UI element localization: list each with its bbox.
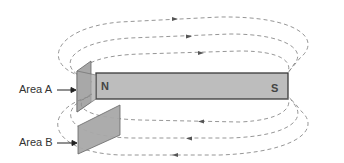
- area-a-front: [77, 71, 96, 112]
- arrow-icon: [172, 17, 178, 21]
- arrow-icon: [172, 153, 178, 157]
- south-pole-label: S: [271, 82, 278, 94]
- bar-magnet: N S: [96, 73, 288, 99]
- pointer-arrow-icon: [72, 141, 77, 146]
- north-pole-label: N: [101, 80, 109, 92]
- arrow-icon: [198, 120, 204, 124]
- area-a-label: Area A: [19, 84, 52, 95]
- pointer-arrow-icon: [71, 88, 76, 93]
- area-b-label: Area B: [19, 137, 53, 148]
- arrow-icon: [198, 51, 204, 55]
- field-line-above-outer: [58, 17, 308, 78]
- arrow-icon: [186, 137, 192, 141]
- area-b-plate: [78, 105, 120, 154]
- arrow-icon: [186, 35, 192, 39]
- field-lines-above: [58, 17, 308, 82]
